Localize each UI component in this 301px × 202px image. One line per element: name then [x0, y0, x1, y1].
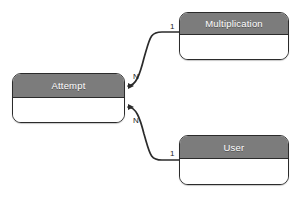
- cardinality-label-one-multiplication: 1: [170, 23, 174, 31]
- entity-user-body: [180, 159, 288, 184]
- entity-attempt-header: Attempt: [13, 74, 124, 98]
- cardinality-label-one-user: 1: [170, 150, 174, 158]
- entity-attempt-title: Attempt: [51, 80, 85, 91]
- entity-attempt[interactable]: Attempt: [12, 73, 125, 123]
- entity-user-title: User: [224, 142, 245, 153]
- cardinality-label-n-upper: N: [133, 73, 139, 81]
- entity-multiplication-header: Multiplication: [180, 13, 288, 35]
- entity-multiplication[interactable]: Multiplication: [179, 12, 289, 60]
- entity-attempt-body: [13, 98, 124, 122]
- cardinality-label-n-lower: N: [133, 117, 139, 125]
- entity-user[interactable]: User: [179, 135, 289, 185]
- er-diagram-canvas: Attempt Multiplication User N 1 N 1: [0, 0, 301, 202]
- entity-user-header: User: [180, 136, 288, 159]
- entity-multiplication-body: [180, 35, 288, 59]
- entity-multiplication-title: Multiplication: [205, 18, 263, 29]
